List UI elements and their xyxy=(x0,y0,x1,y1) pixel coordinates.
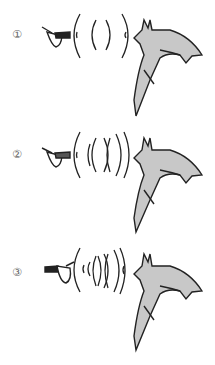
panel-3-illustration xyxy=(0,240,215,365)
bat-icon xyxy=(134,138,202,232)
panel-1: ① xyxy=(0,0,215,120)
sound-wave-icon xyxy=(74,132,129,178)
bat-icon xyxy=(134,254,202,350)
panel-2: ② xyxy=(0,120,215,240)
panel-1-illustration xyxy=(0,0,215,120)
moth-icon xyxy=(45,262,74,283)
sound-wave-icon xyxy=(74,14,128,58)
bat-icon xyxy=(134,20,202,116)
panel-2-illustration xyxy=(0,120,215,240)
sound-wave-icon xyxy=(74,248,125,294)
panel-3: ③ xyxy=(0,240,215,360)
moth-icon xyxy=(42,148,70,167)
moth-icon xyxy=(42,27,70,47)
